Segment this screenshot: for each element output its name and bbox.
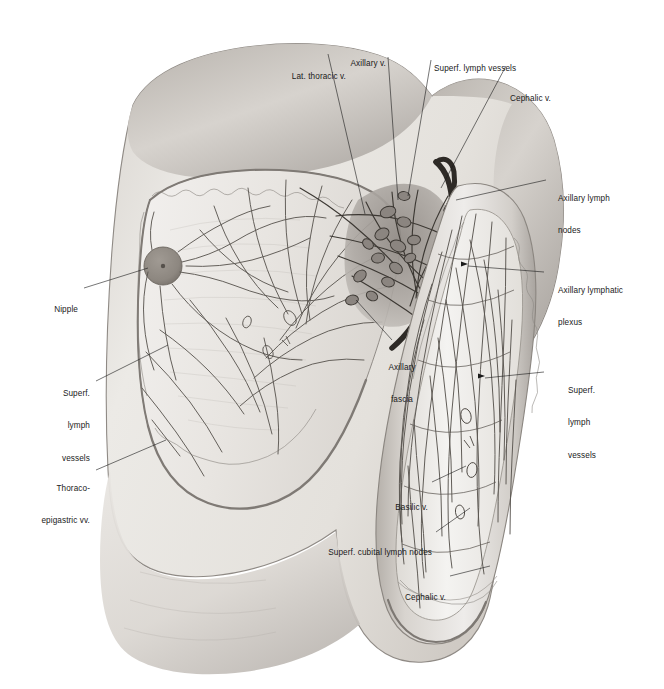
label-line: Nipple — [6, 305, 78, 316]
label-axillary-lymphatic-plexus: Axillary lymphatic plexus — [558, 264, 662, 340]
label-superf-cubital-lymph-nodes: Superf. cubital lymph nodes — [296, 526, 432, 569]
label-line: Superf. — [6, 389, 90, 400]
anatomical-plate: Lat. thoracic v. Axillary v. Superf. lym… — [0, 0, 664, 689]
label-line: Axillary v. — [290, 59, 386, 70]
label-line: lymph — [568, 418, 658, 429]
label-line: Cephalic v. — [358, 593, 446, 604]
label-superf-lymph-vessels-right: Superf. lymph vessels — [568, 364, 658, 472]
label-cephalic-v-bottom: Cephalic v. — [358, 571, 446, 614]
label-line: Cephalic v. — [510, 94, 610, 105]
label-line: Superf. — [568, 386, 658, 397]
label-nipple: Nipple — [6, 283, 78, 326]
label-axillary-lymph-nodes: Axillary lymph nodes — [558, 172, 658, 248]
label-superf-lymph-vessels-left: Superf. lymph vessels — [6, 367, 90, 475]
label-line: Basilic v. — [340, 503, 428, 514]
label-axillary-v: Axillary v. — [290, 37, 386, 80]
label-line: Axillary lymphatic — [558, 286, 662, 297]
label-line: Thoraco- — [6, 484, 90, 495]
label-line: plexus — [558, 318, 662, 329]
label-line: nodes — [558, 226, 658, 237]
nipple-center — [161, 264, 165, 268]
label-thoraco-epigastric-vv: Thoraco- epigastric vv. — [6, 462, 90, 538]
label-line: Axillary lymph — [558, 194, 658, 205]
label-basilic-v: Basilic v. — [340, 481, 428, 524]
label-axillary-fascia: Axillary fascia — [374, 341, 430, 417]
label-line: epigastric vv. — [6, 516, 90, 527]
label-line: Axillary — [374, 363, 430, 374]
label-cephalic-v-top: Cephalic v. — [510, 72, 610, 115]
label-line: vessels — [568, 451, 658, 462]
label-line: fascia — [374, 395, 430, 406]
label-line: lymph — [6, 421, 90, 432]
label-line: Superf. cubital lymph nodes — [296, 548, 432, 559]
